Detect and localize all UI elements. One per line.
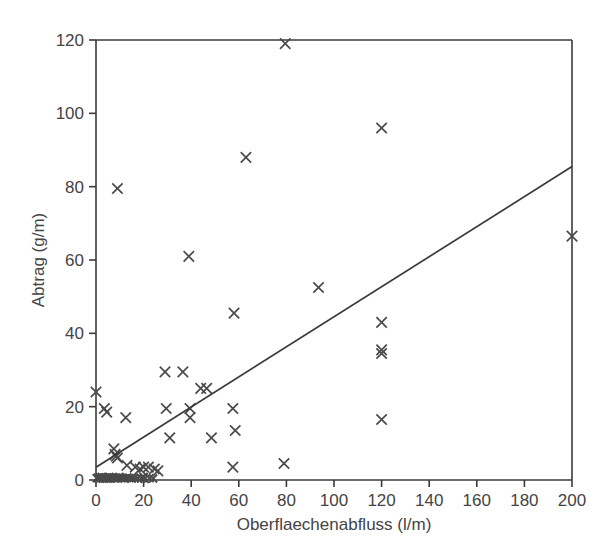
y-tick-label: 120	[56, 31, 84, 50]
x-tick-label: 120	[367, 491, 395, 510]
x-tick-label: 40	[182, 491, 201, 510]
x-tick-label: 60	[229, 491, 248, 510]
chart-background	[0, 0, 614, 557]
x-axis-title: Oberflaechenabfluss (l/m)	[237, 515, 432, 534]
y-axis-title: Abtrag (g/m)	[29, 213, 48, 307]
x-tick-label: 160	[463, 491, 491, 510]
y-tick-label: 100	[56, 104, 84, 123]
y-tick-label: 80	[65, 178, 84, 197]
y-tick-label: 0	[75, 471, 84, 490]
x-tick-label: 80	[277, 491, 296, 510]
chart-figure: 020406080100120140160180200 020406080100…	[0, 0, 614, 557]
y-tick-label: 20	[65, 398, 84, 417]
x-tick-label: 100	[320, 491, 348, 510]
x-tick-label: 140	[415, 491, 443, 510]
y-tick-label: 60	[65, 251, 84, 270]
y-tick-label: 40	[65, 324, 84, 343]
x-tick-label: 20	[134, 491, 153, 510]
x-tick-label: 200	[558, 491, 586, 510]
x-tick-label: 180	[510, 491, 538, 510]
scatter-plot: 020406080100120140160180200 020406080100…	[0, 0, 614, 557]
x-tick-label: 0	[91, 491, 100, 510]
